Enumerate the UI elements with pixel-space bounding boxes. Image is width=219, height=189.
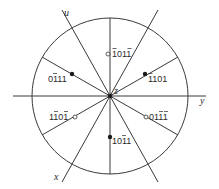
stereogram: u x y z 1011 0111 1101 1101 0111 1011	[0, 0, 219, 189]
z-axis-label: z	[113, 85, 118, 96]
pole-label: 0111	[149, 112, 168, 122]
pole-marker-filled	[70, 72, 74, 76]
pole-marker-open	[144, 115, 148, 119]
pole-marker-filled	[143, 72, 147, 76]
u-axis-label: u	[64, 7, 69, 18]
pole-label: 0111	[48, 74, 67, 84]
pole-marker-open	[106, 52, 110, 56]
pole-label: 1101	[49, 112, 68, 122]
x-axis-label: x	[53, 171, 59, 182]
center-pole	[108, 94, 112, 98]
pole-marker-open	[73, 115, 77, 119]
pole-label: 1101	[148, 74, 167, 84]
pole-label: 1011	[112, 136, 131, 146]
pole-label: 1011	[112, 49, 131, 59]
y-axis-label: y	[199, 95, 205, 106]
